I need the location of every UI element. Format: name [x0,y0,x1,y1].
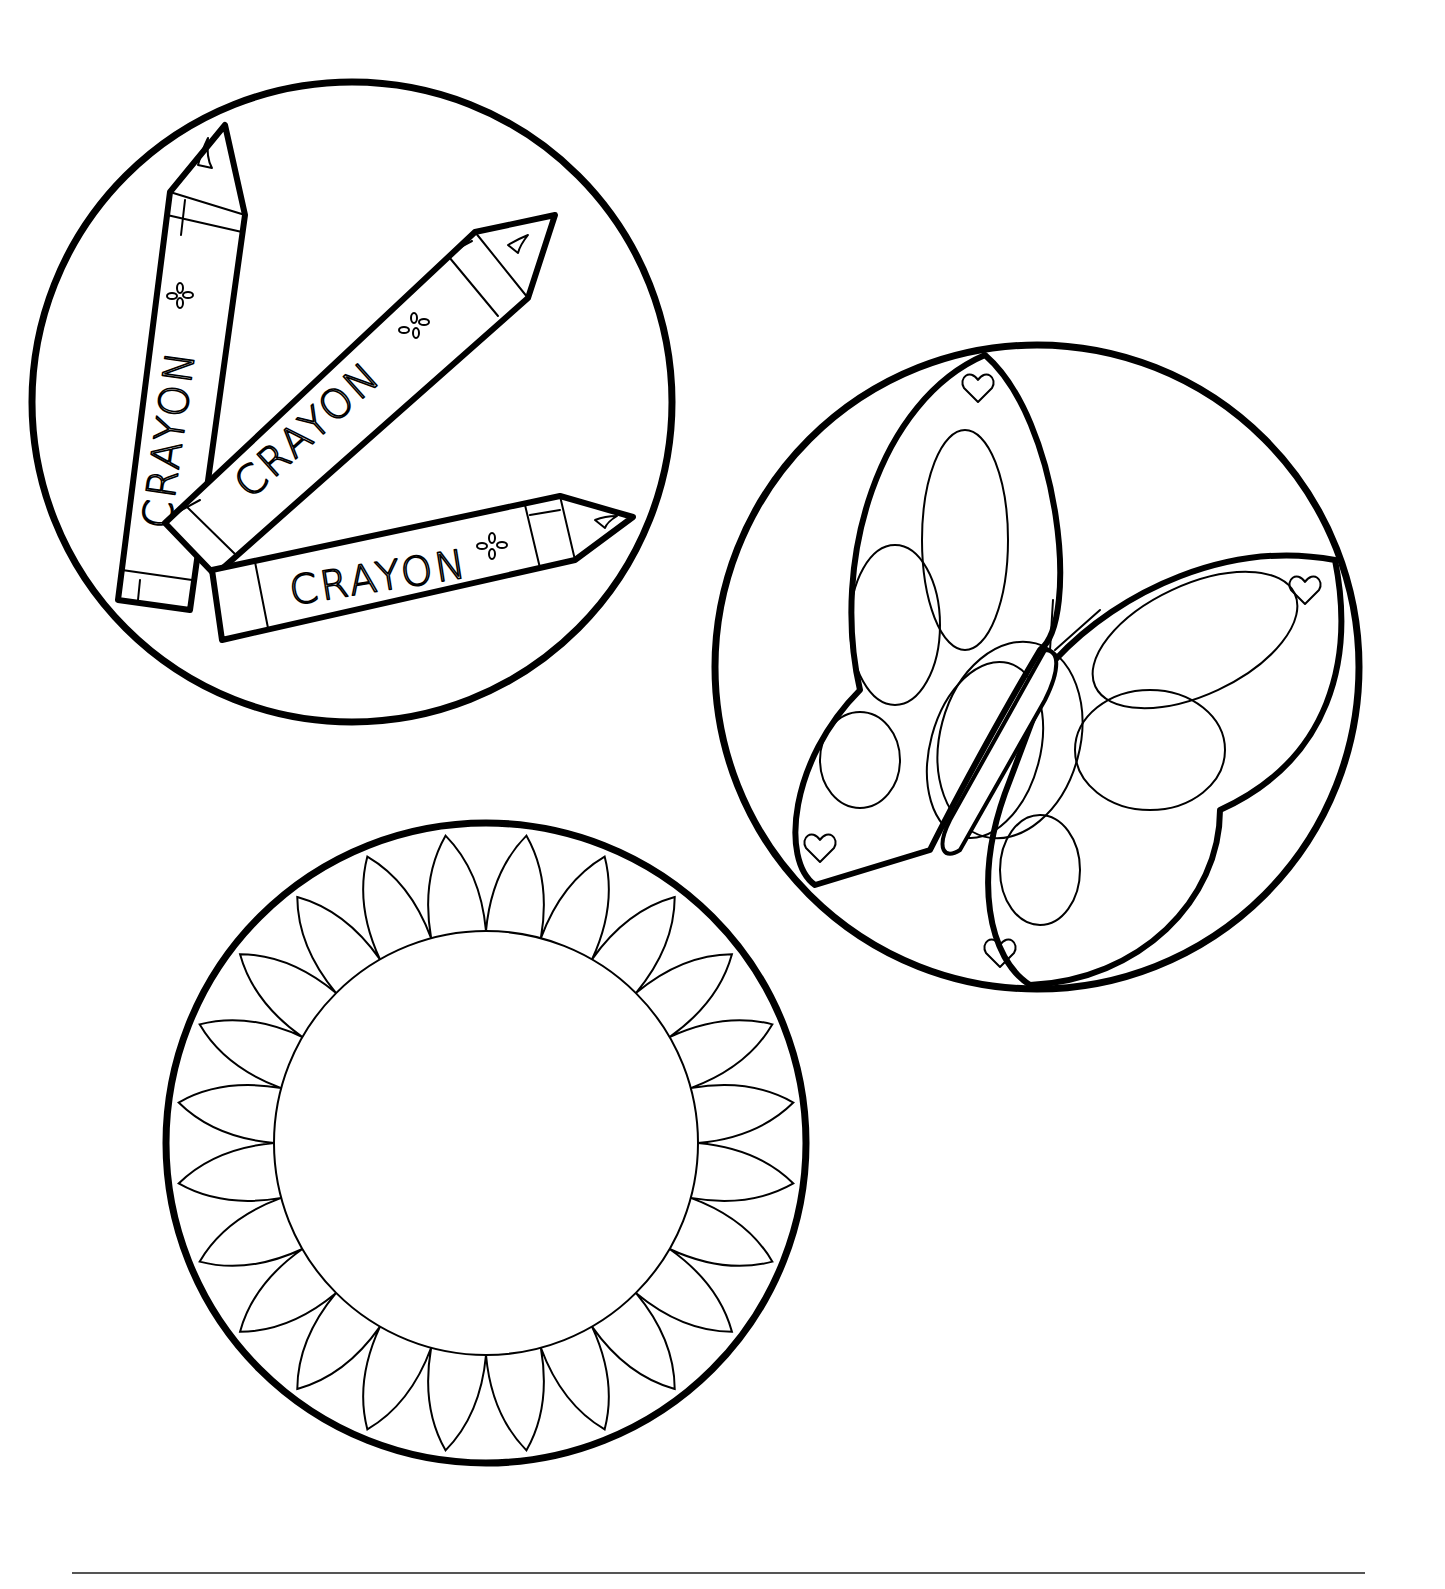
wing-spots [820,430,1318,925]
sun-inner-circle [274,931,698,1355]
right-wing [988,556,1341,985]
butterfly-panel [715,345,1359,989]
sun-outer-circle [166,823,806,1463]
coloring-page: CRAYON CRAYON CRAYO [0,0,1445,1589]
butterfly-body [943,650,1057,854]
sun-petal-outlines [179,836,794,1451]
sun-panel [166,823,806,1463]
crayons-panel: CRAYON CRAYON CRAYO [32,82,672,722]
sun-petals [179,836,794,1451]
